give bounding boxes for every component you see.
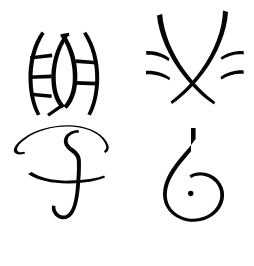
bracketed-vesica-strokes [28, 32, 99, 117]
swash-f-strokes [14, 125, 109, 219]
glyph-bottom-left: Swash-F [12, 122, 118, 222]
glyph-bottom-right: Spiral-6 [158, 126, 240, 224]
glyph-top-right: X-dashes [144, 8, 246, 116]
glyph-top-left: E-lens-E [24, 28, 104, 118]
crossed-arcs-strokes [146, 11, 244, 105]
glyph-plate: E-lens-E X-dashes [0, 0, 254, 266]
spiral-six-strokes [163, 128, 224, 222]
